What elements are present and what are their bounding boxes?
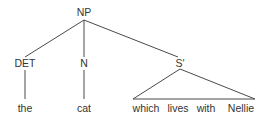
leaf-the: the xyxy=(18,102,33,114)
leaf-which: which xyxy=(132,102,160,114)
edge-np-sbar xyxy=(84,20,178,57)
node-n: N xyxy=(80,57,88,69)
syntax-tree: NP DET N S′ the cat which lives with Nel… xyxy=(0,0,266,118)
edge-np-det xyxy=(25,20,84,57)
node-sbar: S′ xyxy=(176,57,185,69)
leaf-lives: lives xyxy=(167,102,188,114)
leaf-with: with xyxy=(196,102,216,114)
node-det: DET xyxy=(15,57,37,69)
leaf-cat: cat xyxy=(77,102,91,114)
node-np: NP xyxy=(77,6,92,18)
sbar-triangle xyxy=(133,69,255,99)
leaf-nellie: Nellie xyxy=(228,102,254,114)
